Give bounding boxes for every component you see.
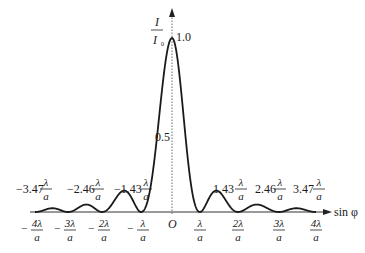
svg-text:4λ: 4λ	[311, 217, 322, 229]
svg-text:λ: λ	[140, 217, 146, 229]
svg-text:a: a	[95, 190, 101, 202]
minimum-label: λa	[194, 217, 206, 243]
svg-text:a: a	[143, 190, 149, 202]
svg-text:a: a	[235, 231, 241, 243]
svg-text:1.43: 1.43	[213, 182, 234, 196]
diffraction-diagram: I I 0 1.0 0.5 O sin φ −4λa−3λa−2λa−λaλa2…	[0, 0, 365, 253]
svg-text:a: a	[197, 231, 203, 243]
svg-text:a: a	[43, 190, 49, 202]
svg-text:I: I	[154, 15, 160, 29]
secondary-maximum-label: −2.46λa	[67, 176, 104, 202]
x-axis-label: sin φ	[334, 205, 358, 219]
svg-text:a: a	[276, 231, 282, 243]
svg-text:3λ: 3λ	[64, 217, 76, 229]
svg-text:λ: λ	[238, 176, 244, 188]
y-tick-1: 1.0	[176, 30, 191, 44]
minimum-label: −4λa	[21, 217, 43, 243]
secondary-maximum-label: 3.47λa	[293, 176, 325, 202]
svg-text:λ: λ	[197, 217, 203, 229]
svg-text:a: a	[67, 231, 73, 243]
svg-text:−: −	[21, 222, 27, 234]
svg-text:2.46: 2.46	[255, 182, 276, 196]
minimum-label: 4λa	[310, 217, 322, 243]
svg-text:λ: λ	[316, 176, 322, 188]
svg-text:−1.43: −1.43	[114, 182, 142, 196]
minimum-label: −3λa	[54, 217, 76, 243]
y-axis-arrow-icon	[169, 8, 175, 17]
svg-text:−: −	[88, 222, 94, 234]
origin-label: O	[168, 217, 177, 231]
svg-text:λ: λ	[277, 176, 283, 188]
secondary-maximum-label: 1.43λa	[213, 176, 247, 202]
svg-text:a: a	[140, 231, 146, 243]
svg-text:2λ: 2λ	[233, 217, 244, 229]
secondary-maximum-label: 2.46λa	[255, 176, 286, 202]
svg-text:λ: λ	[95, 176, 101, 188]
secondary-maximum-label: −1.43λa	[114, 176, 152, 202]
svg-text:a: a	[34, 231, 40, 243]
svg-text:a: a	[277, 190, 283, 202]
secondary-maximum-label: −3.47λa	[16, 176, 52, 202]
svg-text:a: a	[238, 190, 244, 202]
svg-text:a: a	[313, 231, 319, 243]
minimum-label: −λa	[127, 217, 149, 243]
svg-text:0: 0	[161, 41, 164, 47]
svg-text:−3.47: −3.47	[16, 182, 44, 196]
svg-text:a: a	[101, 231, 107, 243]
svg-text:4λ: 4λ	[32, 217, 43, 229]
svg-text:3λ: 3λ	[273, 217, 285, 229]
x-axis-arrow-icon	[323, 209, 332, 215]
svg-text:a: a	[316, 190, 322, 202]
svg-text:−: −	[54, 222, 60, 234]
svg-text:2λ: 2λ	[99, 217, 110, 229]
svg-text:λ: λ	[143, 176, 149, 188]
svg-text:λ: λ	[43, 176, 49, 188]
minimum-label: 2λa	[232, 217, 244, 243]
svg-text:−2.46: −2.46	[67, 182, 95, 196]
minimum-label: 3λa	[273, 217, 285, 243]
svg-text:I: I	[152, 33, 158, 47]
minimum-label: −2λa	[88, 217, 110, 243]
svg-text:−: −	[127, 222, 133, 234]
secondary-maxima-labels: −3.47λa−2.46λa−1.43λa1.43λa2.46λa3.47λa	[16, 176, 325, 202]
y-axis-label: I I 0	[151, 15, 164, 47]
svg-text:3.47: 3.47	[293, 182, 314, 196]
y-tick-0-5: 0.5	[155, 130, 170, 144]
